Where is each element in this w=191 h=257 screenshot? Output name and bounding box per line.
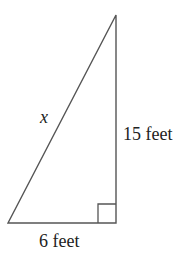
triangle <box>8 15 116 223</box>
hypotenuse-label: x <box>39 107 48 127</box>
vertical-leg-label: 15 feet <box>123 124 172 144</box>
triangle-diagram: x 15 feet 6 feet <box>0 0 191 257</box>
right-angle-marker <box>98 204 116 223</box>
horizontal-leg-label: 6 feet <box>39 231 79 251</box>
